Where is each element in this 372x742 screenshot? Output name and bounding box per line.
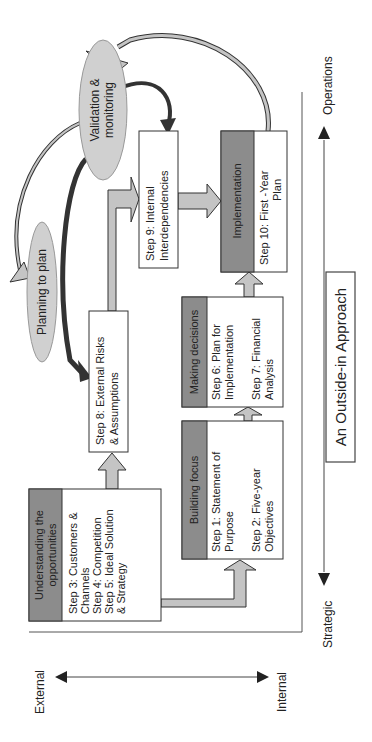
- building-line-3: Objectives: [263, 500, 275, 552]
- group-implementation: Implementation Step 10: First -Year Plan: [221, 131, 287, 272]
- building-line-0: Step 1: Statement of: [210, 451, 222, 552]
- diagram-canvas: Operations Strategic External Internal A…: [0, 0, 372, 742]
- block-arrow-step9-to-implementation: [178, 184, 221, 218]
- step8-box: Step 8: External Risks & Assumptions: [89, 311, 128, 452]
- ellipse-planning-to-plan: Planning to plan: [27, 222, 57, 362]
- group-making-decisions: Making decisions Step 6: Plan for Implem…: [182, 297, 283, 407]
- building-header: Building focus: [188, 455, 200, 524]
- planning-label: Planning to plan: [35, 249, 49, 335]
- arrowhead-left-icon: [55, 671, 67, 683]
- step8-line2: & Assumptions: [108, 372, 120, 445]
- building-line-2: Step 2: Five-year: [250, 468, 262, 552]
- arrowhead-right-icon: [257, 671, 269, 683]
- group-building-focus: Building focus Step 1: Statement of Purp…: [182, 421, 283, 559]
- understanding-line-2: Step 4: Competition: [91, 517, 103, 614]
- block-arrow-step8-to-step9: [108, 177, 139, 311]
- step9-line1: Step 9: Internal: [144, 186, 156, 261]
- making-line-3: Analysis: [263, 359, 275, 400]
- making-line-1: Implementation: [223, 325, 235, 400]
- understanding-line-4: & Strategy: [115, 562, 127, 614]
- implementation-header: Implementation: [231, 163, 243, 238]
- block-arrow-understanding-to-step8: [98, 453, 126, 489]
- understanding-line-3: Step 5: Ideal Solution: [103, 509, 115, 614]
- axis-label-strategic: Strategic: [321, 601, 335, 648]
- title-box: An Outside-in Approach: [326, 272, 355, 462]
- curved-arrow-validation-to-step8: [63, 159, 86, 375]
- block-arrow-making-to-implementation: [235, 272, 263, 297]
- understanding-line-1: Channels: [79, 567, 91, 614]
- implementation-line-0: Step 10: First -Year: [258, 170, 270, 265]
- axis-label-internal: Internal: [275, 672, 289, 712]
- making-line-0: Step 6: Plan for: [210, 324, 222, 400]
- step9-line2: Interdependencies: [158, 170, 170, 261]
- arrowhead-up-icon: [318, 126, 330, 139]
- diagram-title: An Outside-in Approach: [332, 288, 349, 446]
- implementation-line-1: Plan: [271, 179, 283, 201]
- making-line-2: Step 7: Financial: [250, 318, 262, 400]
- step9-box: Step 9: Internal Interdependencies: [139, 131, 178, 268]
- building-line-1: Purpose: [223, 511, 235, 552]
- understanding-line-0: Step 3: Customers &: [67, 512, 79, 614]
- validation-label-line2: monitoring: [102, 82, 116, 138]
- arrowhead-down-icon: [318, 573, 330, 586]
- curved-arrow-validation-to-step9: [120, 83, 170, 125]
- group-understanding-opportunities: Understanding the opportunities Step 3: …: [29, 489, 161, 621]
- understanding-header-line2: opportunities: [46, 523, 58, 586]
- step8-line1: Step 8: External Risks: [94, 336, 106, 445]
- block-arrow-building-to-making: [234, 407, 262, 421]
- validation-label-line1: Validation &: [88, 78, 102, 141]
- ellipse-validation-monitoring: Validation & monitoring: [79, 40, 127, 180]
- understanding-header-line1: Understanding the: [33, 510, 45, 600]
- block-arrow-understanding-to-building: [161, 560, 256, 607]
- horizontal-axis-arrow: [55, 671, 269, 683]
- axis-label-external: External: [33, 670, 47, 714]
- making-header: Making decisions: [188, 309, 200, 394]
- axis-label-operations: Operations: [321, 56, 335, 115]
